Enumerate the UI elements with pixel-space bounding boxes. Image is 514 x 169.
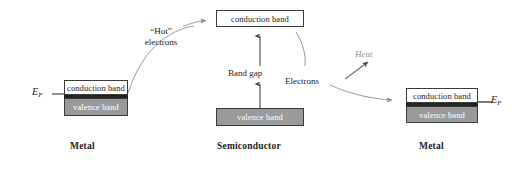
left-fermi-level-label: EF xyxy=(32,86,43,99)
left-metal-conduction-band: conduction band xyxy=(64,80,128,95)
left-metal-section-label: Metal xyxy=(70,141,95,152)
heat-label: Heat xyxy=(355,49,373,60)
heat-arrow xyxy=(345,62,368,79)
right-metal-section-label: Metal xyxy=(419,141,444,152)
right-fermi-level-subscript: F xyxy=(497,99,501,107)
right-metal-band-stack: conduction band valence band xyxy=(406,88,478,123)
energy-band-diagram: conduction band valence band EF Metal “H… xyxy=(0,0,514,169)
left-metal-band-stack: conduction band valence band xyxy=(64,80,128,116)
electrons-label: Electrons xyxy=(285,76,319,87)
left-metal-valence-band: valence band xyxy=(64,98,128,116)
right-fermi-level-label: EF xyxy=(491,94,502,107)
semiconductor-conduction-band: conduction band xyxy=(216,10,304,27)
semiconductor-valence-band: valence band xyxy=(216,108,304,126)
hot-electrons-label-line1: “Hot” xyxy=(130,26,192,37)
right-metal-conduction-band: conduction band xyxy=(406,88,478,103)
left-fermi-level-subscript: F xyxy=(38,91,42,99)
hot-electrons-label: “Hot” electrons xyxy=(130,26,192,47)
hot-electrons-label-line2: electrons xyxy=(130,37,192,48)
electrons-curve-down xyxy=(296,32,305,66)
electrons-curve-right xyxy=(330,85,392,100)
band-gap-label: Band gap xyxy=(228,68,262,79)
semiconductor-section-label: Semiconductor xyxy=(217,141,281,152)
right-metal-valence-band: valence band xyxy=(406,106,478,123)
